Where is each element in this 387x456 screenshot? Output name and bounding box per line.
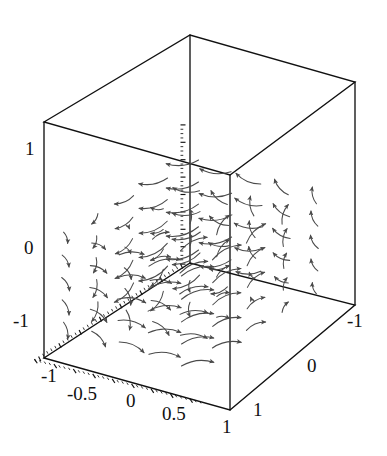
vector-arrow	[273, 228, 291, 238]
vector-arrow	[93, 258, 96, 273]
x-tick-label-neg1: -1	[41, 366, 57, 385]
vector-arrow	[282, 302, 288, 312]
vector-arrow	[148, 329, 180, 333]
vector-arrow	[64, 322, 68, 339]
vector-field-3d-plot: 1 0 -1 -1 -0.5 0 0.5 1 1 0 -1	[0, 0, 387, 456]
vector-arrow	[213, 317, 241, 326]
vector-arrow	[275, 179, 289, 195]
vector-arrow	[236, 173, 261, 184]
vector-arrow	[148, 282, 180, 289]
vector-arrow	[251, 297, 254, 300]
vector-arrow	[283, 278, 287, 290]
vector-arrow	[92, 243, 106, 249]
vector-arrow	[62, 255, 69, 267]
x-tick-label-05: 0.5	[162, 404, 186, 423]
vector-arrow	[92, 331, 106, 347]
vector-arrow	[126, 226, 129, 229]
vector-arrow	[213, 293, 241, 305]
vector-arrow	[199, 215, 232, 221]
vector-arrow	[139, 266, 168, 281]
vector-arrow	[64, 232, 68, 243]
vector-arrow	[180, 334, 207, 339]
vector-arrow	[92, 214, 98, 224]
vector-arrow	[310, 235, 318, 248]
vector-arrow	[166, 227, 198, 237]
vector-arrow	[149, 352, 180, 357]
vector-arrow	[236, 271, 261, 274]
z-tick-label-neg1: -1	[13, 311, 29, 330]
vector-arrow	[182, 313, 214, 322]
vector-arrow	[90, 288, 108, 298]
vector-arrow	[173, 188, 200, 193]
vector-arrow	[311, 211, 318, 226]
z-tick-label-1: 1	[25, 139, 35, 158]
vector-arrow	[119, 252, 144, 255]
vector-arrow	[212, 245, 241, 260]
vector-arrow	[90, 266, 107, 274]
vector-arrow	[275, 277, 289, 283]
vector-arrow	[180, 311, 208, 315]
vector-arrow	[283, 253, 286, 268]
vector-arrow	[62, 300, 69, 315]
vector-arrow	[182, 337, 214, 344]
vector-arrow	[188, 302, 190, 316]
vector-arrow	[114, 196, 133, 204]
box-top-face	[44, 35, 355, 175]
vector-arrow	[212, 341, 241, 348]
vector-arrow	[119, 342, 144, 353]
vector-arrow	[312, 187, 316, 204]
x-tick-label-1: 1	[222, 417, 232, 436]
vector-arrow	[139, 221, 167, 233]
vector-arrow	[182, 290, 214, 300]
vector-arrow	[93, 236, 97, 248]
vector-arrow	[234, 223, 262, 228]
vector-arrow	[311, 259, 318, 271]
vector-arrow	[247, 297, 265, 308]
vector-arrow	[273, 253, 290, 261]
vector-arrow	[139, 178, 168, 185]
vector-arrow	[199, 237, 231, 244]
plot-canvas	[0, 0, 387, 456]
x-tick-label-0: 0	[126, 391, 136, 410]
bounding-box	[44, 35, 355, 410]
y-tick-label-0: 0	[307, 356, 317, 375]
vector-arrow	[92, 302, 98, 322]
vector-arrow	[115, 217, 133, 228]
vector-arrow	[246, 322, 265, 330]
vector-arrow	[166, 204, 198, 213]
vector-arrow	[199, 193, 231, 197]
vector-arrow	[235, 198, 262, 206]
x-tick-label-neg05: -0.5	[67, 384, 97, 403]
vector-arrow	[62, 278, 70, 291]
vector-arrow	[211, 191, 227, 205]
vector-arrow	[153, 322, 169, 336]
vector-arrow	[312, 283, 316, 294]
y-tick-label-neg1: -1	[347, 311, 363, 330]
vector-arrow	[172, 212, 200, 216]
vector-arrow	[118, 320, 145, 328]
z-tick-label-0: 0	[24, 238, 34, 257]
vector-arrow	[189, 280, 190, 292]
vector-arrow	[139, 200, 167, 209]
y-tick-label-1: 1	[253, 400, 263, 419]
vector-arrow	[181, 360, 213, 366]
